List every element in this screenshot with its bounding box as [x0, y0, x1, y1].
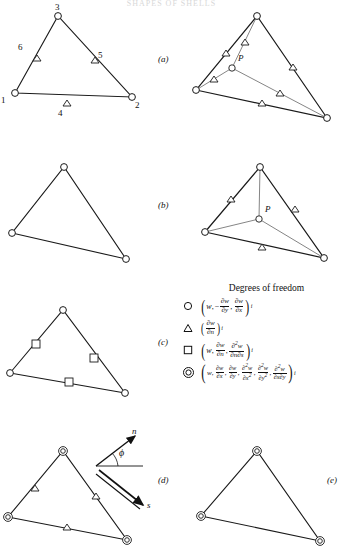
legend-expression-circle: ( w, − ∂w∂y , ∂w∂x ) i: [200, 297, 343, 316]
double-circle-marker: [176, 366, 200, 379]
term-d2w-dx2: ∂2w∂x2: [241, 363, 253, 381]
degrees-of-freedom-legend: Degrees of freedom ( w, − ∂w∂y , ∂w∂x ) …: [176, 283, 343, 385]
tangent-vector-label-s: s: [147, 500, 151, 510]
term-dw-dn: ∂w∂n: [215, 342, 225, 358]
subscript-i: i: [221, 325, 223, 331]
panel-d-triangle: [4, 447, 132, 545]
panel-label-b: (b): [158, 200, 169, 210]
circle-marker: [176, 300, 200, 312]
legend-title: Degrees of freedom: [190, 283, 343, 293]
node-number-2: 2: [135, 100, 140, 110]
paren-open: (: [201, 297, 205, 316]
paren-open: (: [201, 341, 205, 360]
term-dw-dx: ∂w∂x: [215, 365, 224, 379]
term-d2w-dy2: ∂2w∂y2: [257, 363, 269, 381]
normal-vector-label-n: n: [132, 426, 137, 436]
paren-close: ): [288, 362, 292, 383]
paren-open: (: [201, 321, 204, 336]
node-number-4: 4: [58, 108, 63, 118]
legend-row-circle: ( w, − ∂w∂y , ∂w∂x ) i: [176, 296, 343, 316]
panel-label-c: (c): [158, 337, 168, 347]
subscript-i: i: [294, 370, 296, 376]
panel-c-triangle: [7, 307, 129, 397]
panel-a-left-triangle: [12, 13, 136, 106]
node-number-1: 1: [1, 95, 6, 105]
figure-canvas: [0, 0, 343, 553]
legend-expression-triangle: ( ∂w∂n ) i: [200, 320, 343, 336]
panel-label-d: (d): [158, 475, 169, 485]
legend-row-double-circle: ( w, ∂w∂x , ∂w∂y , ∂2w∂x2 , ∂2w∂y2 , ∂2w…: [176, 362, 343, 383]
panel-label-a: (a): [158, 54, 169, 64]
panel-label-e: (e): [327, 475, 337, 485]
legend-expression-double-circle: ( w, ∂w∂x , ∂w∂y , ∂2w∂x2 , ∂2w∂y2 , ∂2w…: [200, 362, 343, 383]
legend-row-triangle: ( ∂w∂n ) i: [176, 318, 343, 338]
term-dw-dn: ∂w∂n: [206, 320, 216, 336]
paren-close: ): [217, 321, 220, 336]
paren-close: ): [246, 297, 250, 316]
node-number-3: 3: [55, 2, 60, 12]
term-dw-dy: ∂w∂y: [220, 298, 230, 314]
term-d2w-dnds: ∂2w∂n∂s: [229, 341, 244, 359]
node-number-6: 6: [18, 42, 23, 52]
panel-b-left-triangle: [9, 164, 130, 263]
square-marker: [176, 344, 200, 356]
angle-label-phi: ϕ: [119, 447, 124, 458]
triangle-marker: [176, 322, 200, 334]
panel-e-triangle: [197, 447, 325, 546]
panel-a-right-triangle-subdivided: [193, 13, 331, 122]
subscript-i: i: [251, 347, 253, 353]
point-label-p-panel-a: P: [238, 53, 244, 63]
term-dw-dy: ∂w∂y: [228, 365, 237, 379]
subscript-i: i: [251, 303, 253, 309]
paren-open: (: [201, 362, 205, 383]
legend-row-square: ( w, ∂w∂n , ∂2w∂n∂s ) i: [176, 340, 343, 360]
point-label-p-panel-b: P: [265, 204, 271, 214]
legend-expression-square: ( w, ∂w∂n , ∂2w∂n∂s ) i: [200, 341, 343, 360]
term-dw-dx: ∂w∂x: [234, 298, 244, 314]
term-d2w-dxdy: ∂2w∂x∂y: [273, 364, 287, 380]
node-number-5: 5: [98, 50, 103, 60]
paren-close: ): [246, 341, 250, 360]
term-minus: −: [215, 302, 220, 311]
